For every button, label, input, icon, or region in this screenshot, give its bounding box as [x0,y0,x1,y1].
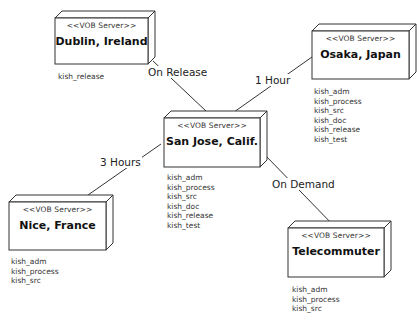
connection-label-1-hour: 1 Hour [254,74,291,86]
connection-label-on-demand: On Demand [271,178,336,190]
node-title: Osaka, Japan [312,48,409,61]
node-title: Nice, France [9,219,106,232]
vob-list-telecommuter: kish_admkish_processkish_src [292,285,340,314]
node-stereotype: <<VOB Server>> [288,231,384,240]
node-title: Telecommuter [288,245,384,258]
connection-line [78,144,161,202]
vob-item: kish_src [292,304,340,314]
vob-item: kish_release [58,72,104,82]
vob-list-dublin: kish_release [58,72,104,82]
vob-list-san-jose: kish_admkish_processkish_srckish_dockish… [167,173,215,231]
node-stereotype: <<VOB Server>> [164,121,260,130]
node-dublin: <<VOB Server>> Dublin, Ireland [55,18,148,64]
vob-item: kish_doc [314,116,362,126]
vob-item: kish_process [11,267,59,277]
vob-item: kish_process [292,295,340,305]
connection-line [265,155,336,228]
node-stereotype: <<VOB Server>> [312,34,409,43]
vob-list-nice: kish_admkish_processkish_src [11,257,59,286]
vob-item: kish_doc [167,202,215,212]
vob-item: kish_src [167,192,215,202]
node-stereotype: <<VOB Server>> [9,205,106,214]
vob-item: kish_adm [167,173,215,183]
vob-item: kish_test [314,135,362,145]
node-stereotype: <<VOB Server>> [55,21,148,30]
node-osaka: <<VOB Server>> Osaka, Japan [312,31,409,79]
node-telecommuter: <<VOB Server>> Telecommuter [288,228,384,277]
vob-item: kish_release [167,211,215,221]
node-title: Dublin, Ireland [55,35,148,48]
node-title: San Jose, Calif. [164,135,260,148]
node-san-jose: <<VOB Server>> San Jose, Calif. [164,118,260,167]
vob-item: kish_release [314,125,362,135]
vob-item: kish_src [314,106,362,116]
vob-item: kish_adm [11,257,59,267]
vob-item: kish_process [314,97,362,107]
vob-item: kish_adm [292,285,340,295]
connection-label-on-release: On Release [147,66,208,78]
connection-label-3-hours: 3 Hours [99,156,142,168]
deployment-diagram: <<VOB Server>> Dublin, Ireland kish_rele… [0,0,419,322]
vob-list-osaka: kish_admkish_processkish_srckish_dockish… [314,87,362,145]
vob-item: kish_test [167,221,215,231]
vob-item: kish_src [11,276,59,286]
node-nice: <<VOB Server>> Nice, France [9,202,106,250]
vob-item: kish_adm [314,87,362,97]
vob-item: kish_process [167,183,215,193]
